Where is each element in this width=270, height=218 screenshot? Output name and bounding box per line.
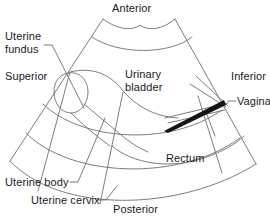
label-urinary-bladder: Urinary bladder [125,68,185,93]
label-uterine-cervix: Uterine cervix [31,194,100,207]
fan-near-field-arc [103,19,175,29]
label-urinary-bladder-line2: bladder [125,81,162,93]
label-uterine-fundus-line1: Uterine [5,30,41,42]
label-uterine-fundus-line2: fundus [5,43,39,55]
fan-second-arc [92,37,192,51]
label-urinary-bladder-line1: Urinary [125,68,161,80]
label-posterior: Posterior [113,203,158,216]
label-uterine-fundus: Uterine fundus [5,30,65,55]
vagina-lumen-wedge [164,100,226,133]
label-rectum: Rectum [166,152,205,165]
label-superior: Superior [5,70,47,83]
ultrasound-anatomy-figure: Anterior Uterine fundus Superior Urinary… [0,0,270,218]
uterus-outline [54,73,88,113]
label-uterine-body: Uterine body [5,176,69,189]
label-vagina: Vagina [237,95,270,108]
depth-arc-lower [26,133,240,169]
label-anterior: Anterior [112,2,151,15]
leader-uterine-body [70,118,105,182]
label-inferior: Inferior [231,70,266,83]
radial-guide-center [100,92,123,204]
